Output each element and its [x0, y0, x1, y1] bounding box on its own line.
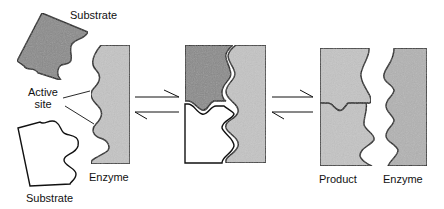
substrate-bottom-label: Substrate	[26, 192, 73, 204]
diagram-canvas	[0, 0, 444, 209]
product-bottom-shape	[320, 103, 374, 166]
active-site-label-line2: site	[20, 98, 66, 110]
active-site-label-line1: Active	[20, 86, 66, 98]
complex-substrate-top-shape	[185, 45, 233, 110]
substrate-top-shape	[17, 13, 88, 80]
enzyme-right-shape	[384, 48, 427, 166]
enzyme-left-shape	[91, 45, 130, 164]
complex-substrate-bottom-shape	[185, 104, 234, 163]
enzyme-right-label: Enzyme	[383, 173, 423, 185]
active-site-pointer-lower	[65, 106, 94, 124]
enzyme-left-label: Enzyme	[89, 171, 129, 183]
reversible-arrow-2	[272, 90, 313, 119]
active-site-pointer-upper	[63, 91, 90, 98]
product-top-shape	[320, 48, 371, 111]
active-site-label: Active site	[20, 86, 66, 110]
substrate-bottom-shape	[18, 121, 78, 186]
product-label: Product	[319, 173, 357, 185]
reversible-arrow-1	[135, 90, 179, 119]
substrate-top-label: Substrate	[70, 9, 117, 21]
